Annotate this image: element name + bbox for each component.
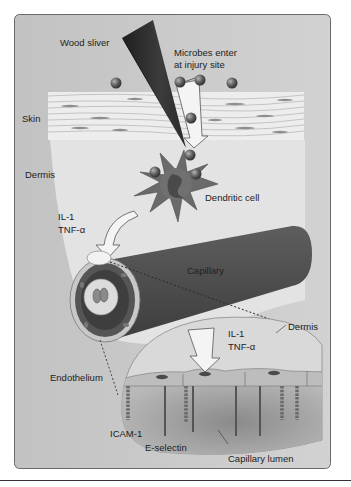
bottom-rule: [0, 480, 351, 481]
inflammation-diagram: Wood sliver Microbes enter at injury sit…: [0, 0, 351, 487]
label-skin: Skin: [22, 113, 40, 124]
label-wood-sliver: Wood sliver: [60, 37, 109, 48]
label-dermis-left: Dermis: [25, 169, 55, 180]
label-capillary: Capillary: [187, 265, 224, 276]
label-icam1: ICAM-1: [110, 428, 142, 439]
label-microbes-line1: Microbes enter: [174, 47, 237, 58]
label-e-selectin: E-selectin: [145, 442, 187, 453]
label-il1-upper: IL-1: [58, 211, 74, 222]
label-microbes-line2: at injury site: [174, 59, 225, 70]
label-dermis-inset: Dermis: [288, 321, 318, 332]
label-endothelium: Endothelium: [50, 372, 103, 383]
label-capillary-lumen: Capillary lumen: [228, 453, 293, 464]
label-il1-lower: IL-1: [228, 328, 244, 339]
label-tnf-upper: TNF-α: [58, 224, 86, 235]
label-tnf-lower: TNF-α: [228, 341, 256, 352]
label-dendritic-cell: Dendritic cell: [205, 192, 259, 203]
